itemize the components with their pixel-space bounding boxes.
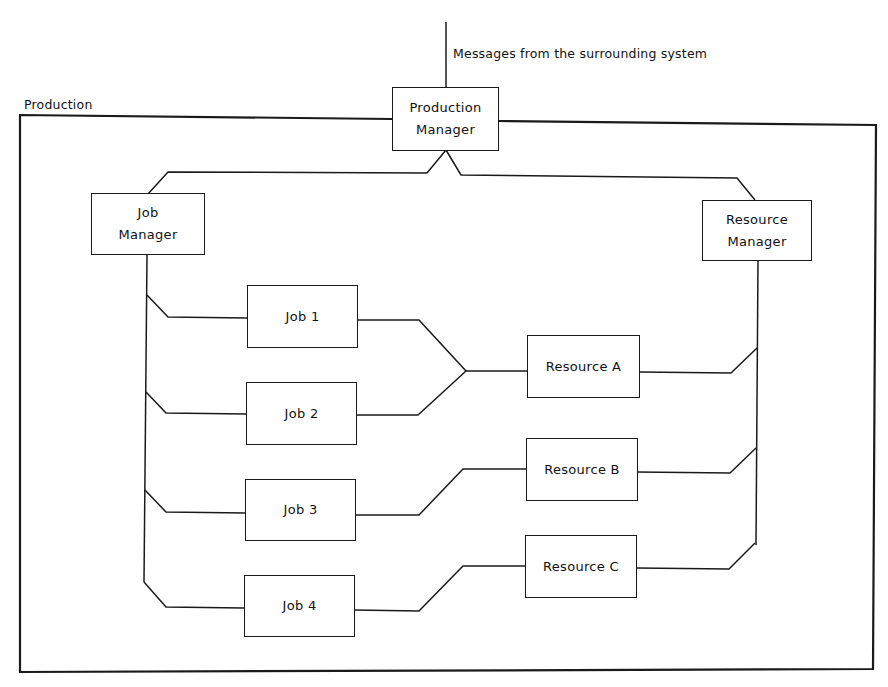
job4-node: Job 4	[244, 575, 355, 637]
production-manager-node: Production Manager	[392, 87, 499, 151]
resource-bus	[756, 261, 758, 545]
job2-label: Job 2	[285, 403, 319, 425]
resource-b-node: Resource B	[526, 438, 638, 501]
job-manager-label-1: Job	[138, 202, 159, 224]
job3-label: Job 3	[284, 499, 318, 521]
pm-to-job-manager	[148, 150, 446, 194]
resource-manager-label-2: Manager	[727, 231, 786, 253]
job4-label: Job 4	[283, 595, 317, 617]
resource-c-node: Resource C	[525, 535, 637, 598]
job-bus	[144, 255, 147, 582]
production-manager-label-2: Manager	[416, 119, 475, 141]
resource-b-label: Resource B	[544, 459, 620, 481]
external-input-label: Messages from the surrounding system	[453, 46, 707, 61]
production-container-label: Production	[24, 97, 93, 112]
resource-a-label: Resource A	[546, 356, 622, 378]
pm-to-resource-manager	[446, 150, 755, 200]
resource-manager-label-1: Resource	[726, 209, 788, 231]
job1-label: Job 1	[286, 306, 320, 328]
resource-c-label: Resource C	[543, 556, 619, 578]
resource-manager-node: Resource Manager	[702, 200, 812, 261]
job-manager-label-2: Manager	[118, 224, 177, 246]
job3-node: Job 3	[245, 479, 356, 541]
job-manager-node: Job Manager	[91, 193, 205, 255]
production-manager-label-1: Production	[409, 97, 481, 119]
job1-node: Job 1	[247, 285, 358, 348]
resource-a-node: Resource A	[527, 335, 640, 398]
job2-node: Job 2	[246, 382, 357, 445]
